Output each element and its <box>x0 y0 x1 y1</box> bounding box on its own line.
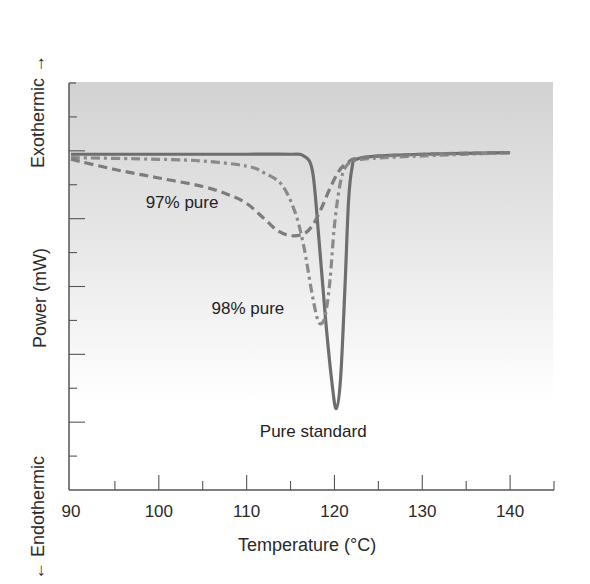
y-axis-endothermic-label: ← Endothermic <box>28 456 49 580</box>
y-axis-exothermic-label: Exothermic → <box>28 55 49 168</box>
annotation-98-pure: 98% pure <box>212 299 285 318</box>
arrow-down-icon: ← <box>28 562 48 580</box>
exothermic-label: Exothermic <box>28 78 48 168</box>
annotation-97-pure: 97% pure <box>146 193 219 212</box>
x-tick-label: 130 <box>408 502 436 521</box>
power-label: Power (mW) <box>30 248 50 348</box>
endothermic-label: Endothermic <box>28 456 48 557</box>
x-tick-label: 110 <box>233 502 260 521</box>
x-tick-label: 140 <box>496 502 524 521</box>
plot-background <box>69 82 553 417</box>
dsc-chart: 90100110120130140 97% pure98% purePure s… <box>0 0 590 584</box>
x-tick-label: 120 <box>320 502 348 521</box>
y-axis-power-label: Power (mW) <box>30 248 51 348</box>
x-tick-label: 100 <box>145 502 173 521</box>
x-axis-label: Temperature (°C) <box>238 535 376 556</box>
annotation-pure-standard: Pure standard <box>260 422 367 441</box>
arrow-up-icon: → <box>28 55 48 73</box>
x-tick-label: 90 <box>62 502 81 521</box>
